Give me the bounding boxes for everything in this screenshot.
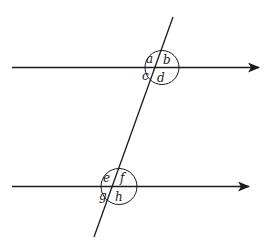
angle-label-f: f (119, 171, 127, 185)
angle-label-c: c (142, 69, 149, 83)
angle-label-b: b (163, 53, 171, 67)
angle-label-e: e (103, 171, 110, 185)
angle-label-h: h (115, 190, 123, 204)
transversal-line (94, 17, 173, 237)
parallel-lines-diagram: a b c d e f g h (0, 0, 267, 251)
angle-label-a: a (146, 52, 153, 66)
angle-label-d: d (157, 71, 165, 85)
angle-label-g: g (99, 189, 107, 203)
